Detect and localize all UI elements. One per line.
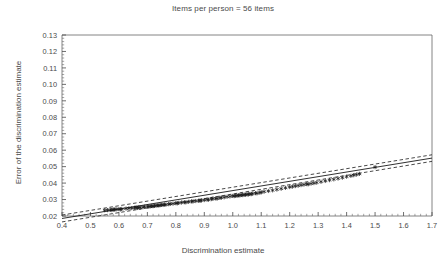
x-tick-label: 0.7 xyxy=(142,221,152,230)
y-tick-label: 0.05 xyxy=(43,162,57,171)
data-point-marker xyxy=(328,178,332,182)
x-axis-label: Discrimination estimate xyxy=(0,246,446,255)
y-tick-label: 0.02 xyxy=(43,212,57,221)
regression-line xyxy=(62,158,432,218)
figure: Items per person = 56 items Error of the… xyxy=(0,0,446,268)
y-tick-label: 0.04 xyxy=(43,179,57,188)
axes-frame xyxy=(62,35,432,216)
data-point-marker xyxy=(284,186,288,190)
y-tick-label: 0.11 xyxy=(43,64,57,73)
x-tick-label: 0.6 xyxy=(114,221,124,230)
y-tick-label: 0.10 xyxy=(43,80,57,89)
y-axis-ticks: 0.020.030.040.050.060.070.080.090.100.11… xyxy=(43,31,66,221)
data-point-marker xyxy=(267,189,271,193)
x-tick-label: 0.5 xyxy=(85,221,95,230)
x-tick-label: 1.4 xyxy=(341,221,351,230)
y-tick-label: 0.12 xyxy=(43,47,57,56)
data-point-marker xyxy=(279,187,283,191)
data-point-marker xyxy=(275,187,279,191)
x-tick-label: 1.2 xyxy=(285,221,295,230)
y-tick-label: 0.08 xyxy=(43,113,57,122)
y-tick-label: 0.13 xyxy=(43,31,57,40)
x-tick-label: 1.5 xyxy=(370,221,380,230)
y-tick-label: 0.07 xyxy=(43,129,57,138)
data-point-marker xyxy=(323,179,327,183)
x-tick-label: 1.7 xyxy=(427,221,437,230)
data-point-marker xyxy=(319,180,323,184)
x-tick-label: 0.9 xyxy=(199,221,209,230)
scatter-plot: 0.020.030.040.050.060.070.080.090.100.11… xyxy=(0,0,446,268)
data-point-marker xyxy=(271,188,275,192)
x-tick-label: 1.3 xyxy=(313,221,323,230)
x-tick-label: 1.0 xyxy=(228,221,238,230)
y-tick-label: 0.03 xyxy=(43,195,57,204)
x-tick-label: 0.4 xyxy=(57,221,67,230)
x-tick-label: 1.6 xyxy=(398,221,408,230)
x-axis-ticks: 0.40.50.60.70.80.91.01.11.21.31.41.51.61… xyxy=(57,212,437,230)
data-point-marker xyxy=(332,177,336,181)
x-tick-label: 0.8 xyxy=(171,221,181,230)
y-tick-label: 0.09 xyxy=(43,97,57,106)
x-tick-label: 1.1 xyxy=(256,221,266,230)
y-tick-label: 0.06 xyxy=(43,146,57,155)
